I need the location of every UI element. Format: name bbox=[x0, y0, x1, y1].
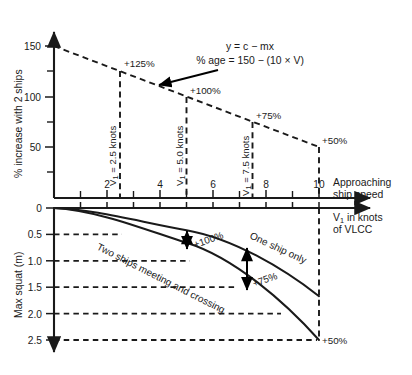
upper-x-tick-label-6: 6 bbox=[210, 179, 216, 190]
upper-y-tick-label-150: 150 bbox=[24, 41, 41, 52]
speed-label-5.0-knots: V1 = 5.0 knots bbox=[174, 125, 187, 186]
squat-diagram-figure: 150 100 50 % increase with 2 ships 2 4 6… bbox=[0, 0, 412, 375]
dimension-label-75: +75% bbox=[251, 270, 279, 289]
diagram-canvas: 150 100 50 % increase with 2 ships 2 4 6… bbox=[0, 0, 412, 375]
percent-label-100: +100% bbox=[190, 85, 221, 96]
lower-y-tick-label-0: 0 bbox=[36, 203, 42, 214]
x-axis-caption-line1: Approaching bbox=[333, 177, 392, 188]
percent-label-50: +50% bbox=[322, 135, 348, 146]
percent-label-125: +125% bbox=[124, 58, 155, 69]
curve-label-one-ship-only: One ship only bbox=[248, 230, 308, 266]
speed-label-7.5-knots: V1 = 7.5 knots bbox=[240, 135, 253, 196]
upper-y-tick-label-100: 100 bbox=[24, 92, 41, 103]
speed-label-2.5-knots: V1 = 2.5 knots bbox=[107, 125, 120, 186]
upper-chart: 150 100 50 % increase with 2 ships 2 4 6… bbox=[13, 32, 392, 200]
curve-label-two-ships: Two ships meeting and crossing bbox=[95, 241, 227, 315]
upper-y-axis-title: % increase with 2 ships bbox=[13, 69, 24, 178]
equation-pointer-arrow bbox=[159, 70, 218, 85]
equation-line-1: y = c − mx bbox=[226, 41, 275, 52]
upper-x-tick-label-8: 8 bbox=[263, 179, 269, 190]
lower-y-tick-label-2.0: 2.0 bbox=[28, 309, 42, 320]
lower-y-axis-title: Max squat (m) bbox=[13, 252, 24, 318]
lower-y-tick-label-1.0: 1.0 bbox=[28, 256, 42, 267]
lower-chart: V1 in knots of VLCC 0 0.5 1.0 1.5 2.0 2.… bbox=[13, 202, 383, 352]
percent-label-75: +75% bbox=[256, 110, 282, 121]
lower-y-tick-label-2.5: 2.5 bbox=[28, 335, 42, 346]
equation-line-2: % age = 150 − (10 × V) bbox=[196, 55, 304, 66]
lower-percent-label-50: +50% bbox=[322, 335, 348, 346]
lower-axis-caption-line2: of VLCC bbox=[333, 224, 373, 235]
upper-x-tick-label-4: 4 bbox=[157, 179, 163, 190]
upper-x-ticks bbox=[81, 190, 320, 198]
x-axis-caption-line2: ship speed bbox=[333, 189, 383, 200]
upper-y-tick-label-50: 50 bbox=[30, 142, 42, 153]
lower-y-tick-label-1.5: 1.5 bbox=[28, 282, 42, 293]
curve-two-ships-meeting bbox=[54, 208, 319, 340]
lower-y-tick-label-0.5: 0.5 bbox=[28, 229, 42, 240]
